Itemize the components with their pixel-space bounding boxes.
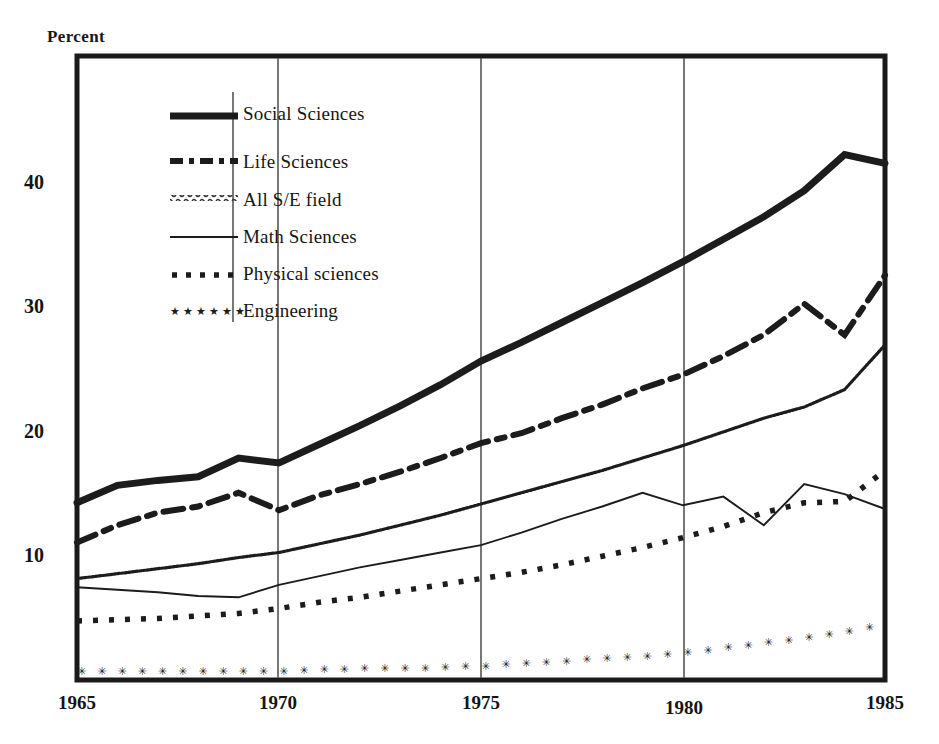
x-tick-label-1970: 1970 xyxy=(238,692,318,714)
legend-swatch-fine-wavy xyxy=(170,195,238,201)
y-tick-label-10: 10 xyxy=(0,544,44,567)
svg-text:✳: ✳ xyxy=(501,658,510,671)
y-axis-title: Percent xyxy=(47,27,105,47)
svg-text:★: ★ xyxy=(183,305,193,318)
svg-text:✳: ✳ xyxy=(542,656,551,669)
svg-text:✳: ✳ xyxy=(360,662,369,675)
svg-text:✳: ✳ xyxy=(845,625,854,638)
legend-label-social-sciences: Social Sciences xyxy=(243,103,365,125)
x-tick-label-1980: 1980 xyxy=(644,697,724,719)
x-tick-label-1985: 1985 xyxy=(845,692,925,714)
svg-text:✳: ✳ xyxy=(340,663,349,676)
svg-text:✳: ✳ xyxy=(198,665,207,678)
x-tick-label-1975: 1975 xyxy=(441,692,521,714)
svg-text:✳: ✳ xyxy=(865,621,874,634)
svg-text:✳: ✳ xyxy=(158,665,167,678)
legend-label-all-se-field: All S/E field xyxy=(243,189,342,211)
svg-text:✳: ✳ xyxy=(400,662,409,675)
svg-text:✳: ✳ xyxy=(562,655,571,668)
svg-text:✳: ✳ xyxy=(764,636,773,649)
svg-text:✳: ✳ xyxy=(218,665,227,678)
svg-text:✳: ✳ xyxy=(279,665,288,678)
legend-label-math-sciences: Math Sciences xyxy=(243,226,357,248)
y-tick-label-40: 40 xyxy=(0,171,44,194)
svg-text:✳: ✳ xyxy=(239,665,248,678)
svg-text:✳: ✳ xyxy=(259,665,268,678)
svg-text:✳: ✳ xyxy=(582,653,591,666)
svg-text:✳: ✳ xyxy=(481,660,490,673)
svg-text:✳: ✳ xyxy=(138,665,147,678)
svg-text:✳: ✳ xyxy=(804,631,813,644)
svg-text:★: ★ xyxy=(209,305,219,318)
legend-label-life-sciences: Life Sciences xyxy=(243,151,348,173)
svg-text:✳: ✳ xyxy=(77,665,86,678)
svg-text:✳: ✳ xyxy=(178,665,187,678)
svg-text:✳: ✳ xyxy=(683,646,692,659)
plot-area: ★ ★ ★ ★ ★ ★ ✳✳✳✳✳✳✳✳✳✳✳✳✳✳✳✳✳✳✳✳✳✳✳✳✳✳✳✳… xyxy=(0,0,939,744)
svg-text:✳: ✳ xyxy=(420,662,429,675)
svg-text:★: ★ xyxy=(170,305,180,318)
x-tick-label-1965: 1965 xyxy=(37,692,117,714)
svg-text:✳: ✳ xyxy=(461,660,470,673)
legend-label-physical-sciences: Physical sciences xyxy=(243,263,379,285)
svg-text:✳: ✳ xyxy=(663,648,672,661)
svg-text:✳: ✳ xyxy=(622,651,631,664)
svg-text:✳: ✳ xyxy=(784,634,793,647)
y-tick-label-30: 30 xyxy=(0,295,44,318)
svg-text:✳: ✳ xyxy=(643,650,652,663)
legend-label-engineering: Engineering xyxy=(243,300,338,322)
svg-text:★: ★ xyxy=(196,305,206,318)
chart-figure: Percent 40 30 20 10 1965 1970 1975 1980 … xyxy=(0,0,939,744)
svg-text:✳: ✳ xyxy=(824,628,833,641)
svg-text:✳: ✳ xyxy=(380,662,389,675)
svg-text:✳: ✳ xyxy=(117,665,126,678)
svg-text:✳: ✳ xyxy=(744,639,753,652)
svg-text:✳: ✳ xyxy=(299,664,308,677)
svg-text:✳: ✳ xyxy=(97,665,106,678)
svg-text:✳: ✳ xyxy=(703,644,712,657)
svg-text:✳: ✳ xyxy=(602,652,611,665)
svg-text:✳: ✳ xyxy=(521,657,530,670)
svg-text:✳: ✳ xyxy=(723,641,732,654)
y-tick-label-20: 20 xyxy=(0,420,44,443)
svg-text:★: ★ xyxy=(222,305,232,318)
svg-text:✳: ✳ xyxy=(319,663,328,676)
svg-text:✳: ✳ xyxy=(441,661,450,674)
series-engineering: ✳✳✳✳✳✳✳✳✳✳✳✳✳✳✳✳✳✳✳✳✳✳✳✳✳✳✳✳✳✳✳✳✳✳✳✳✳✳✳✳ xyxy=(77,621,874,678)
